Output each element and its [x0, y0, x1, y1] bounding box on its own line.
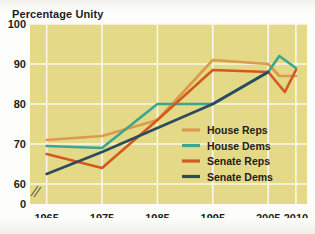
y-axis-tick-label: 90: [14, 58, 26, 70]
y-axis-ticks: 060708090100: [8, 18, 26, 210]
x-axis-ticks: 196519751985199520052010: [34, 212, 308, 224]
legend-label-house-dems: House Dems: [207, 140, 271, 152]
x-axis-tick-label: 1985: [145, 212, 169, 224]
x-axis-tick-label: 2005: [256, 212, 280, 224]
line-chart-plot: 060708090100 196519751985199520052010 Ho…: [0, 0, 315, 234]
chart-figure: Percentage Unity 060708090100 1965197519…: [0, 0, 315, 234]
x-axis-tick-label: 1975: [90, 212, 114, 224]
y-axis-tick-label: 70: [14, 138, 26, 150]
y-axis-tick-label: 100: [8, 18, 26, 30]
legend-label-senate-dems: Senate Dems: [207, 171, 273, 183]
x-axis-tick-label: 1995: [201, 212, 225, 224]
y-axis-tick-label: 80: [14, 98, 26, 110]
legend-label-house-reps: House Reps: [207, 124, 268, 136]
y-axis-tick-label: 60: [14, 178, 26, 190]
legend-label-senate-reps: Senate Reps: [207, 155, 270, 167]
x-axis-tick-label: 1965: [34, 212, 58, 224]
x-axis-tick-label: 2010: [284, 212, 308, 224]
y-axis-tick-label: 0: [20, 198, 26, 210]
